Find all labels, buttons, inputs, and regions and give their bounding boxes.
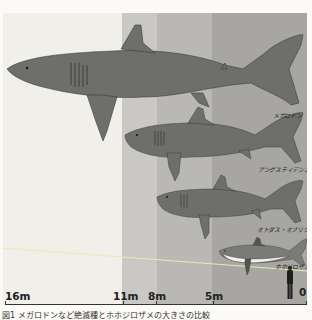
angustidens-eye <box>136 134 138 136</box>
axis-label-11m: 11m <box>113 290 139 302</box>
species-label-great-white: ホホジロザメ <box>275 262 307 271</box>
axis-label-8m: 8m <box>148 290 166 302</box>
axis-label-0: 0 <box>299 286 306 298</box>
axis-tick-5m <box>213 301 214 305</box>
great-white-eye <box>224 250 225 251</box>
sharks-illustration <box>3 13 307 305</box>
size-comparison-figure: メガロドン アングスティデンス オトダス・オブリクース ホホジロザメ 16m 1… <box>3 13 307 305</box>
species-label-angustidens: アングスティデンス <box>258 165 307 174</box>
otodus-eye <box>166 196 168 198</box>
megalodon-eye <box>26 67 28 69</box>
species-label-otodus-obliquus: オトダス・オブリクース <box>257 225 307 234</box>
species-label-megalodon: メガロドン <box>273 111 302 120</box>
megalodon-shark <box>7 25 303 141</box>
axis-label-5m: 5m <box>205 290 223 302</box>
axis-tick-16m <box>5 301 6 305</box>
axis-tick-8m <box>156 301 157 305</box>
axis-label-16m: 16m <box>5 290 31 302</box>
axis-tick-11m <box>123 301 124 305</box>
axis-tick-0 <box>306 301 307 305</box>
figure-caption: 図1 メガロドンなど絶滅種とホホジロザメの大きさの比較 <box>2 309 210 320</box>
